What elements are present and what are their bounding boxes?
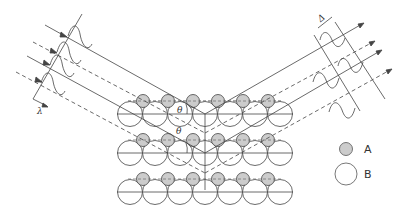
angle-theta-upper: θ: [177, 105, 183, 115]
wavelength-label: λ: [36, 106, 43, 116]
legend-atom-b-icon: [335, 163, 357, 185]
legend-label-a: A: [364, 143, 372, 156]
legend-label-b: B: [364, 168, 372, 181]
bragg-diffraction-diagram: θ θ λ Δ A B: [0, 0, 408, 221]
angle-theta-lower: θ: [176, 126, 182, 136]
legend-atom-a-icon: [340, 143, 353, 156]
legend: A B: [335, 143, 372, 186]
